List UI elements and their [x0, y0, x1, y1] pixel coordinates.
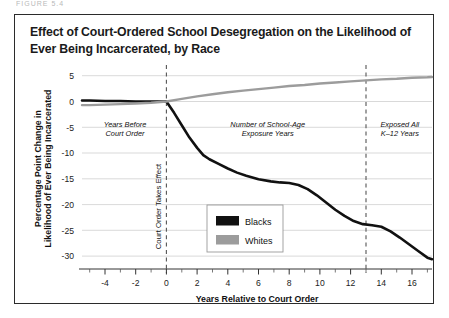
y-tick-label: -15 [62, 174, 75, 184]
y-axis-title-line-1: Likelihood of Ever Being Incarcerated [43, 90, 53, 248]
x-tick-label: -4 [101, 278, 109, 288]
y-axis-title-line-0: Percentage Point Change in [33, 110, 43, 227]
x-tick-label: 10 [315, 278, 325, 288]
annotation-0-line-1: Court Order [105, 129, 145, 138]
reference-line-label: Court Order Takes Effect [154, 163, 163, 249]
legend-label-blacks: Blacks [245, 217, 272, 227]
y-tick-label: -30 [62, 251, 75, 261]
x-tick-label: 14 [377, 278, 387, 288]
figure-frame: Effect of Court-Ordered School Desegrega… [14, 14, 434, 304]
annotation-2-line-0: Exposed All [380, 120, 419, 129]
x-tick-label: 12 [346, 278, 356, 288]
x-tick-label: 6 [256, 278, 261, 288]
annotations-group: Years BeforeCourt OrderNumber of School-… [104, 120, 420, 138]
cut-off-figure-header: FIGURE 5.4 [16, 0, 136, 8]
annotation-1-line-1: Exposure Years [242, 129, 294, 138]
legend-group[interactable]: BlacksWhites [207, 205, 283, 252]
x-tick-label: 0 [164, 278, 169, 288]
legend-label-whites: Whites [245, 236, 273, 246]
y-tick-label: -5 [66, 123, 74, 133]
x-tick-label: -2 [132, 278, 140, 288]
y-tick-label: -25 [62, 226, 75, 236]
y-axis-labels-group: 50-5-10-15-20-25-30 [62, 71, 75, 261]
x-axis-group: -4-20246810121416 [79, 269, 432, 288]
y-tick-label: 0 [69, 97, 74, 107]
legend-swatch-blacks[interactable] [216, 216, 239, 226]
annotation-2-line-1: K–12 Years [381, 129, 419, 138]
x-tick-label: 2 [195, 278, 200, 288]
chart-plot-area: Court Order Takes Effect -4-202468101214… [15, 15, 435, 305]
x-axis-title: Years Relative to Court Order [196, 294, 319, 304]
x-tick-label: 16 [407, 278, 417, 288]
annotation-0-line-0: Years Before [104, 120, 147, 129]
x-tick-label: 8 [287, 278, 292, 288]
x-tick-label: 4 [225, 278, 230, 288]
y-tick-label: -10 [62, 148, 75, 158]
chart-svg: Court Order Takes Effect -4-202468101214… [15, 15, 435, 305]
annotation-1-line-0: Number of School-Age [230, 120, 305, 129]
y-tick-label: -20 [62, 200, 75, 210]
legend-swatch-whites[interactable] [216, 235, 239, 245]
y-tick-label: 5 [69, 71, 74, 81]
